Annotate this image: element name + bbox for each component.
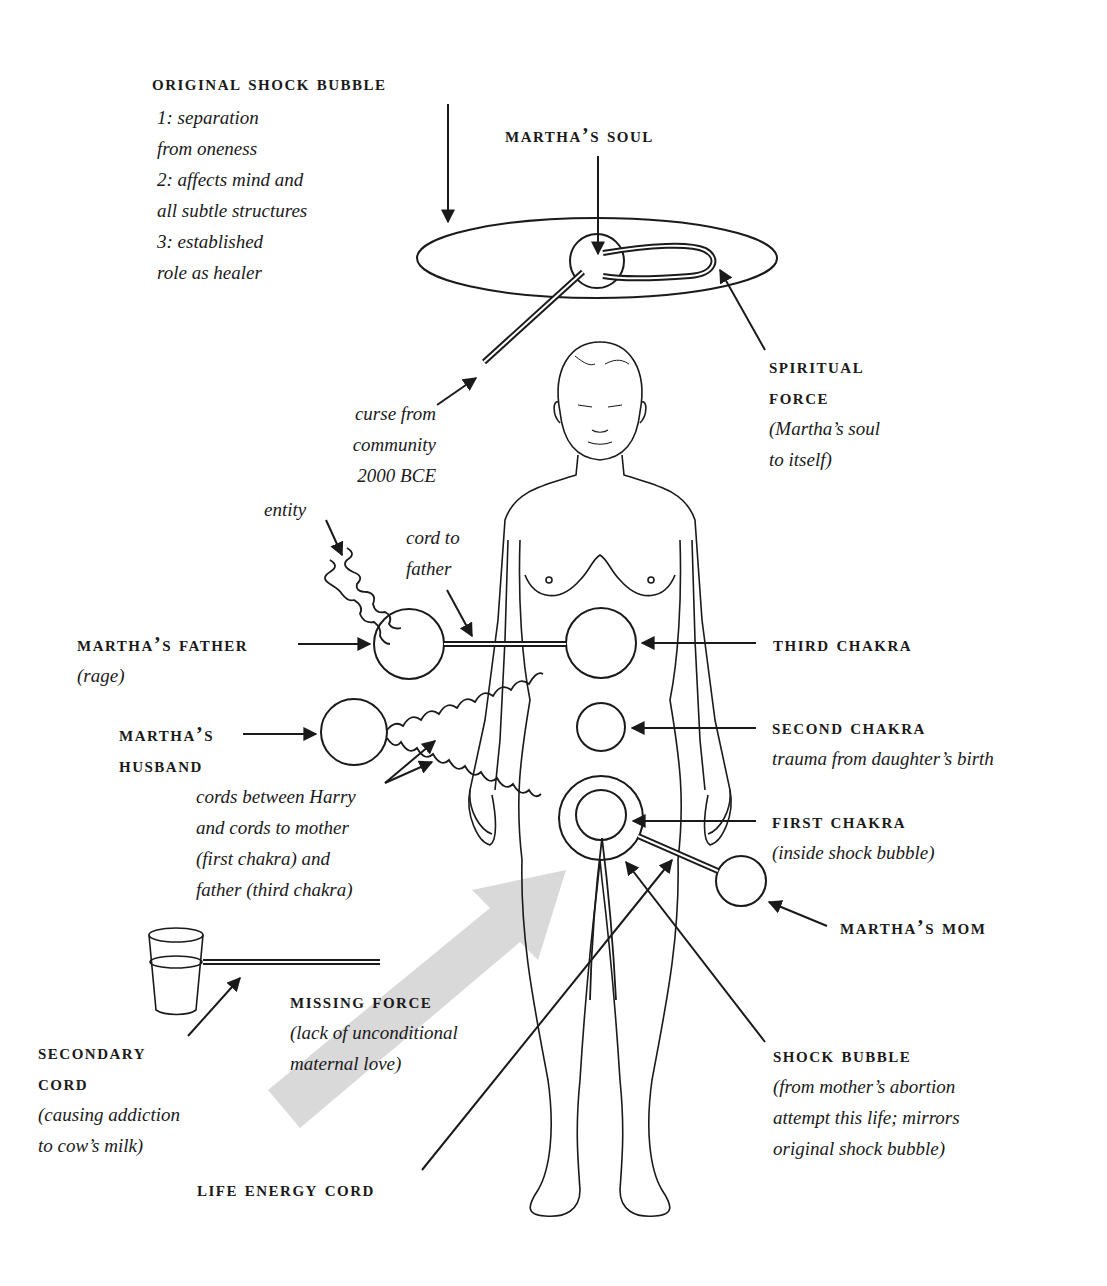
title: MISSING FORCE	[290, 986, 458, 1017]
arrow-entity	[326, 520, 342, 555]
title: HUSBAND	[119, 750, 214, 781]
title: FORCE	[769, 382, 880, 413]
human-body-figure	[469, 342, 731, 1216]
label-cords-between: cords between Harry and cords to mother …	[196, 781, 356, 905]
note-line: to itself)	[769, 444, 880, 475]
note-line: from oneness	[157, 133, 307, 164]
label-shock-bubble: SHOCK BUBBLE (from mother’s abortion att…	[773, 1040, 960, 1164]
label-life-energy-cord: LIFE ENERGY CORD	[197, 1174, 375, 1205]
note-line: and cords to mother	[196, 812, 356, 843]
arrow-cord-to-father	[447, 590, 472, 636]
husband-to-third-chakra	[387, 673, 543, 730]
title: ORIGINAL SHOCK BUBBLE	[152, 68, 387, 99]
note-line: 3: established	[157, 226, 307, 257]
note-line: (first chakra) and	[196, 843, 356, 874]
label-curse: curse from community 2000 BCE	[340, 398, 436, 491]
notes-original-shock-bubble: 1: separation from oneness 2: affects mi…	[157, 102, 307, 288]
label-marthas-soul: MARTHA’S SOUL	[505, 120, 654, 151]
label-marthas-husband: MARTHA’S HUSBAND	[119, 719, 214, 781]
entity-cord-1	[325, 560, 390, 644]
label-entity: entity	[264, 494, 306, 525]
arrow-cords-between-1	[385, 741, 435, 783]
marthas-mom-circle	[716, 856, 766, 906]
note-line: all subtle structures	[157, 195, 307, 226]
arrow-curse	[437, 378, 476, 405]
note-line: role as healer	[157, 257, 307, 288]
note-line: (inside shock bubble)	[772, 837, 935, 868]
second-chakra-circle	[577, 703, 625, 751]
note-line: cord to	[406, 522, 460, 553]
title: MARTHA’S	[119, 719, 214, 750]
note-line: curse from	[340, 398, 436, 429]
arrow-cords-between-2	[385, 762, 432, 783]
marthas-husband-circle	[321, 699, 387, 765]
title: SECONDARY	[38, 1037, 180, 1068]
title: FIRST CHAKRA	[772, 806, 935, 837]
note-line: 2000 BCE	[340, 460, 436, 491]
title: SPIRITUAL	[769, 351, 880, 382]
curse-cord	[484, 272, 583, 362]
note-line: cords between Harry	[196, 781, 356, 812]
wavy-cords	[325, 548, 543, 796]
first-chakra-circle	[576, 790, 626, 840]
arrow-marthas-mom	[769, 902, 827, 926]
note-line: (causing addiction	[38, 1099, 180, 1130]
note-line: (Martha’s soul	[769, 413, 880, 444]
spiritual-force-loop	[603, 246, 713, 279]
note-line: attempt this life; mirrors	[773, 1102, 960, 1133]
label-secondary-cord: SECONDARY CORD (causing addiction to cow…	[38, 1037, 180, 1161]
label-third-chakra: THIRD CHAKRA	[773, 629, 912, 660]
note-line: (rage)	[77, 660, 248, 691]
milk-glass-icon	[149, 928, 203, 1015]
note-line: original shock bubble)	[773, 1133, 960, 1164]
note-line: maternal love)	[290, 1048, 458, 1079]
note-line: trauma from daughter’s birth	[772, 743, 994, 774]
title: CORD	[38, 1068, 180, 1099]
label-marthas-father: MARTHA’S FATHER (rage)	[77, 629, 248, 691]
label-original-shock-bubble: ORIGINAL SHOCK BUBBLE	[152, 68, 387, 99]
arrow-shock-bubble	[626, 862, 765, 1042]
title: MARTHA’S FATHER	[77, 629, 248, 660]
label-missing-force: MISSING FORCE (lack of unconditional mat…	[290, 986, 458, 1079]
note-line: 2: affects mind and	[157, 164, 307, 195]
label-second-chakra: SECOND CHAKRA trauma from daughter’s bir…	[772, 712, 994, 774]
label-spiritual-force: SPIRITUAL FORCE (Martha’s soul to itself…	[769, 351, 880, 475]
note-line: (lack of unconditional	[290, 1017, 458, 1048]
note-line: 1: separation	[157, 102, 307, 133]
label-marthas-mom: MARTHA’S MOM	[840, 912, 986, 943]
note-line: father	[406, 553, 460, 584]
title: SHOCK BUBBLE	[773, 1040, 960, 1071]
husband-to-first-chakra	[387, 738, 541, 796]
label-cord-to-father: cord to father	[406, 522, 460, 584]
title: SECOND CHAKRA	[772, 712, 994, 743]
note-line: (from mother’s abortion	[773, 1071, 960, 1102]
note-line: to cow’s milk)	[38, 1130, 180, 1161]
note-line: father (third chakra)	[196, 874, 356, 905]
label-first-chakra: FIRST CHAKRA (inside shock bubble)	[772, 806, 935, 868]
entity-cord-2	[345, 548, 401, 629]
third-chakra-circle	[566, 608, 636, 678]
note-line: community	[340, 429, 436, 460]
marthas-father-circle	[374, 609, 444, 679]
